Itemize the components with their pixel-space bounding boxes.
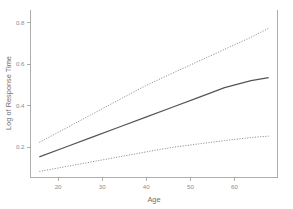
- series-lower-confidence-band: [39, 136, 268, 171]
- x-tick-label-4: 60: [231, 183, 238, 190]
- regression-plot: 0.2 0.4 0.6 0.8 20 30 40 50 60 Age Log o…: [0, 0, 293, 209]
- y-tick-label-3: 0.8: [16, 19, 25, 26]
- y-tick-label-0: 0.2: [16, 143, 25, 150]
- x-axis-title: Age: [147, 195, 160, 204]
- x-tick-label-3: 50: [187, 183, 194, 190]
- x-tick-label-1: 30: [99, 183, 106, 190]
- x-tick-label-2: 40: [143, 183, 150, 190]
- chart-canvas: 0.2 0.4 0.6 0.8 20 30 40 50 60 Age Log o…: [0, 0, 293, 209]
- y-axis-title: Log of Response Time: [4, 56, 13, 130]
- x-tick-label-0: 20: [55, 183, 62, 190]
- y-tick-label-2: 0.6: [16, 60, 25, 67]
- series-group: [39, 28, 268, 171]
- series-fitted-line: [39, 78, 268, 157]
- y-tick-label-1: 0.4: [16, 102, 25, 109]
